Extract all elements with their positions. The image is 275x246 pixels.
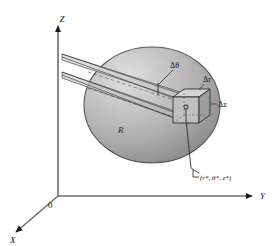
delta-r-label: Δr (203, 75, 211, 84)
region-label: R (117, 125, 124, 135)
coordinate-diagram-svg: Z Y X 0 Δθ Δr Δz R (r*, θ*, z*) (0, 0, 275, 246)
z-axis-label: Z (59, 14, 65, 24)
delta-theta-label: Δθ (170, 61, 179, 70)
origin-label: 0 (48, 200, 53, 210)
x-axis-label: X (9, 235, 16, 245)
point-coordinates-label: (r*, θ*, z*) (200, 174, 232, 182)
y-axis-label: Y (260, 191, 266, 201)
delta-z-label: Δz (218, 100, 227, 109)
figure-container: Z Y X 0 Δθ Δr Δz R (r*, θ*, z*) (0, 0, 275, 246)
